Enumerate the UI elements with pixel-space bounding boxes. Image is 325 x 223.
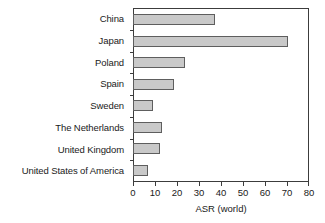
category-label: Poland bbox=[0, 52, 129, 74]
bar-row bbox=[134, 52, 308, 74]
x-axis-tick-label: 60 bbox=[260, 187, 271, 199]
bar-united-states-of-america bbox=[133, 165, 148, 176]
category-label: Sweden bbox=[0, 95, 129, 117]
category-label: United States of America bbox=[0, 160, 129, 182]
bar-row bbox=[134, 160, 308, 182]
x-axis-tick bbox=[177, 182, 178, 186]
bar-chart-figure: China Japan Poland Spain Sweden The Neth… bbox=[0, 0, 325, 223]
plot-area bbox=[133, 8, 309, 182]
bar-japan bbox=[133, 36, 288, 47]
x-axis-tick bbox=[221, 182, 222, 186]
category-label: The Netherlands bbox=[0, 117, 129, 139]
bar-row bbox=[134, 31, 308, 53]
bar-row bbox=[134, 9, 308, 31]
bar-sweden bbox=[133, 100, 153, 111]
x-axis-title: ASR (world) bbox=[133, 203, 309, 215]
category-axis-labels: China Japan Poland Spain Sweden The Neth… bbox=[0, 8, 129, 182]
bar-row bbox=[134, 117, 308, 139]
x-axis-tick bbox=[199, 182, 200, 186]
bar-row bbox=[134, 138, 308, 160]
x-axis-ticks bbox=[133, 182, 309, 186]
x-axis-tick bbox=[155, 182, 156, 186]
x-axis-tick-label: 70 bbox=[282, 187, 293, 199]
x-axis-tick-label: 40 bbox=[216, 187, 227, 199]
x-axis-tick bbox=[287, 182, 288, 186]
x-axis-tick-label: 30 bbox=[194, 187, 205, 199]
x-axis-tick-label: 80 bbox=[304, 187, 315, 199]
bar-spain bbox=[133, 79, 174, 90]
x-axis-tick-label: 50 bbox=[238, 187, 249, 199]
x-axis-tick-labels: 01020304050607080 bbox=[133, 187, 309, 199]
bar-china bbox=[133, 14, 215, 25]
bar-poland bbox=[133, 57, 185, 68]
bars-layer bbox=[134, 9, 308, 181]
bar-united-kingdom bbox=[133, 143, 160, 154]
x-axis-tick bbox=[133, 182, 134, 186]
category-label: Spain bbox=[0, 73, 129, 95]
bar-the-netherlands bbox=[133, 122, 162, 133]
x-axis-tick-label: 0 bbox=[130, 187, 135, 199]
bar-row bbox=[134, 95, 308, 117]
x-axis-tick-label: 10 bbox=[150, 187, 161, 199]
bar-row bbox=[134, 74, 308, 96]
category-label: Japan bbox=[0, 30, 129, 52]
category-label: United Kingdom bbox=[0, 139, 129, 161]
x-axis-tick bbox=[243, 182, 244, 186]
x-axis-tick bbox=[265, 182, 266, 186]
x-axis-tick bbox=[308, 182, 309, 186]
x-axis-tick-label: 20 bbox=[172, 187, 183, 199]
category-label: China bbox=[0, 8, 129, 30]
